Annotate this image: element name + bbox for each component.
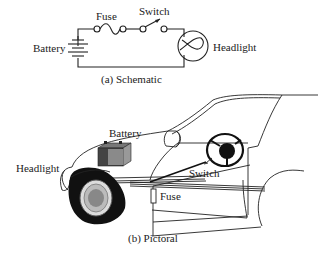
front-wheel-icon [69, 168, 126, 225]
pictorial-caption: (b) Pictoral [128, 232, 178, 244]
lamp-filament-icon [180, 38, 203, 50]
fuse-icon [100, 24, 120, 35]
pictorial-headlight-label: Headlight [16, 162, 59, 174]
schematic-headlight-label: Headlight [213, 41, 256, 53]
pictorial-switch-label: Switch [189, 167, 220, 179]
steering-wheel-icon [204, 134, 243, 166]
schematic-fuse-label: Fuse [96, 10, 117, 22]
fuse-box-icon [151, 189, 156, 203]
battery-box-icon [98, 141, 131, 166]
schematic-caption: (a) Schematic [101, 73, 162, 85]
pictorial-fuse-label: Fuse [160, 190, 181, 202]
fuse-terminal-left-icon [94, 26, 100, 32]
schematic-circuit [68, 19, 208, 67]
schematic-battery-label: Battery [33, 42, 65, 54]
headlight-lamp-icon [178, 31, 208, 61]
pictorial-battery-label: Battery [109, 127, 141, 139]
fuse-terminal-right-icon [120, 26, 126, 32]
diagram-canvas [0, 0, 323, 257]
schematic-switch-label: Switch [139, 5, 170, 17]
switch-terminal-right-icon [161, 26, 167, 32]
